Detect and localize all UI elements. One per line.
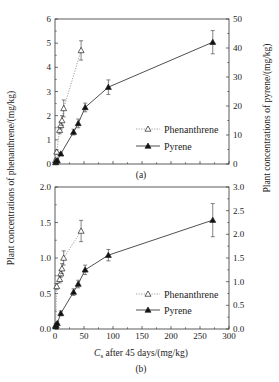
panel-b-label: (b) — [135, 364, 146, 375]
left-tick-label: 1 — [47, 135, 52, 145]
left-tick-label: 2.0 — [40, 182, 52, 192]
right-tick-label: 20 — [233, 101, 243, 111]
right-tick-label: 0 — [233, 159, 238, 169]
x-tick-label: 100 — [106, 331, 120, 341]
right-tick-label: 0.5 — [233, 300, 245, 310]
legend-phenanthrene: Phenanthrene — [164, 289, 219, 300]
right-tick-label: 30 — [233, 72, 243, 82]
x-tick-label: 250 — [193, 331, 207, 341]
x-tick-label: 0 — [53, 331, 58, 341]
legend-pyrene: Pyrene — [164, 305, 192, 316]
right-tick-label: 2.5 — [233, 206, 245, 216]
series-phenanthrene — [53, 41, 85, 163]
left-tick-label: 1.5 — [40, 218, 52, 228]
panel-a: 012345601020304050PhenanthrenePyrene — [47, 14, 243, 169]
right-tick-label: 3.0 — [233, 182, 245, 192]
right-tick-label: 10 — [233, 130, 243, 140]
series-phenanthrene — [53, 220, 85, 327]
right-tick-label: 1.0 — [233, 277, 245, 287]
right-tick-label: 2.0 — [233, 229, 245, 239]
left-tick-label: 4 — [47, 62, 52, 72]
left-tick-label: 6 — [47, 14, 52, 24]
x-tick-label: 150 — [135, 331, 149, 341]
x-axis-label: Cs after 45 days/(mg/kg) — [94, 348, 188, 360]
left-tick-label: 0.0 — [40, 324, 52, 334]
x-tick-label: 50 — [80, 331, 90, 341]
left-tick-label: 0 — [47, 159, 52, 169]
x-tick-label: 200 — [164, 331, 178, 341]
left-axis-label: Plant concentrations of phenanthrene/(mg… — [6, 91, 17, 265]
legend: PhenanthrenePyrene — [136, 124, 219, 152]
right-axis-label: Plant concentrations of pyrene/(mg/kg) — [262, 43, 273, 192]
left-tick-label: 5 — [47, 38, 52, 48]
chart: 012345601020304050PhenanthrenePyrene 050… — [0, 0, 279, 382]
legend-phenanthrene: Phenanthrene — [164, 124, 219, 135]
panel-b: 0501001502002503000.00.51.01.52.00.00.51… — [40, 182, 245, 341]
right-tick-label: 0.0 — [233, 324, 245, 334]
legend-pyrene: Pyrene — [164, 141, 192, 152]
panel-a-label: (a) — [136, 170, 147, 181]
left-tick-label: 3 — [47, 87, 52, 97]
legend: PhenanthrenePyrene — [136, 289, 219, 316]
left-tick-label: 2 — [47, 111, 52, 121]
right-tick-label: 50 — [233, 14, 243, 24]
left-tick-label: 1.0 — [40, 253, 52, 263]
right-tick-label: 1.5 — [233, 253, 245, 263]
left-tick-label: 0.5 — [40, 289, 52, 299]
right-tick-label: 40 — [233, 43, 243, 53]
plot-frame — [55, 187, 229, 329]
